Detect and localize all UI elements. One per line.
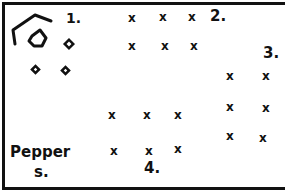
small-pentagon (29, 30, 46, 46)
section-2-label: 2. (210, 9, 226, 23)
plant-mark: x (226, 130, 234, 142)
plant-label-peppers-suffix: s. (34, 165, 49, 179)
diamond-1 (65, 40, 73, 48)
plant-mark: x (108, 109, 116, 121)
plant-mark: x (128, 12, 136, 24)
plant-mark: x (226, 70, 234, 82)
plant-mark: x (159, 11, 167, 23)
plant-mark: x (145, 145, 153, 157)
diamond-2 (32, 66, 39, 73)
section-3-label: 3. (263, 46, 279, 60)
plant-mark: x (226, 101, 234, 113)
plant-mark: x (188, 11, 196, 23)
section-4-label: 4. (144, 161, 160, 175)
plant-mark: x (190, 40, 198, 52)
diamond-3 (62, 67, 69, 74)
plant-mark: x (161, 40, 169, 52)
plant-mark: x (143, 109, 151, 121)
plant-mark: x (174, 109, 182, 121)
plant-mark: x (262, 70, 270, 82)
plant-mark: x (259, 132, 267, 144)
plant-mark: x (110, 145, 118, 157)
plant-mark: x (262, 102, 270, 114)
plant-mark: x (174, 143, 182, 155)
plant-label-peppers: Pepper (10, 145, 70, 159)
plant-mark: x (128, 40, 136, 52)
section-1-label: 1. (66, 11, 81, 25)
